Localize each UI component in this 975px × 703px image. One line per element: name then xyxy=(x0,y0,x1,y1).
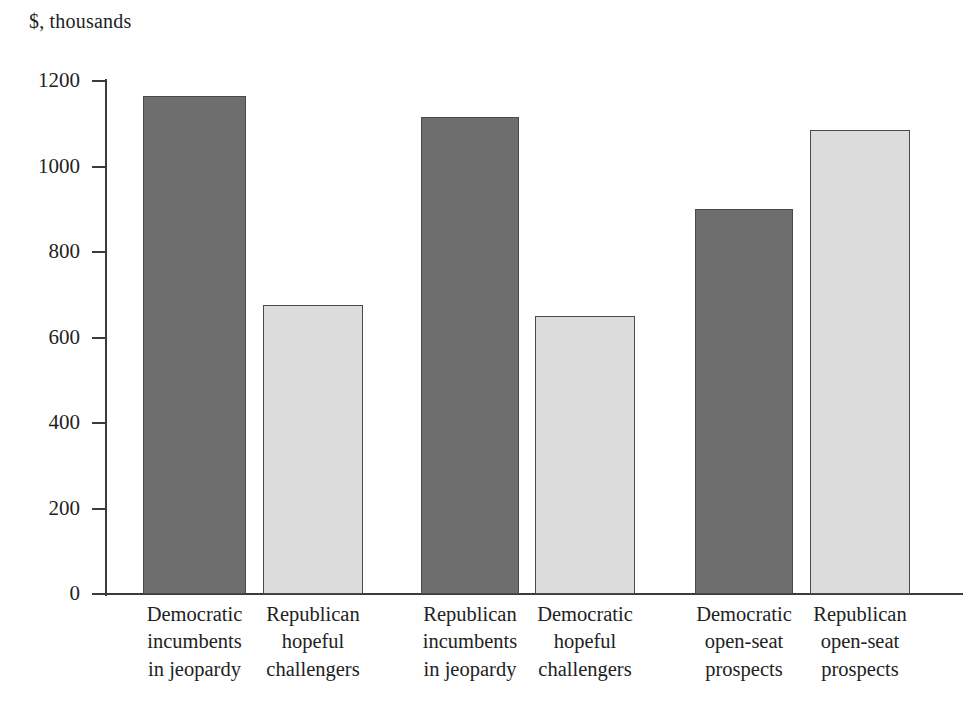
y-axis-tick-mark xyxy=(92,251,106,253)
x-axis-category-label-6: Republicanopen-seatprospects xyxy=(780,601,940,683)
bar-6 xyxy=(810,130,910,594)
x-axis-category-label-2: Republicanhopefulchallengers xyxy=(233,601,393,683)
x-axis-category-label-line: prospects xyxy=(780,656,940,683)
bar-5 xyxy=(695,209,793,594)
bar-2 xyxy=(263,305,363,594)
bar-3 xyxy=(421,117,519,594)
y-axis-tick-mark xyxy=(92,422,106,424)
y-axis-tick-label-text: 800 xyxy=(0,239,80,264)
x-axis-category-label-line: challengers xyxy=(505,656,665,683)
x-axis-category-label-line: Republican xyxy=(233,601,393,628)
y-axis-tick-label-text: 400 xyxy=(0,410,80,435)
x-axis-category-label-4: Democratichopefulchallengers xyxy=(505,601,665,683)
x-axis-category-label-line: open-seat xyxy=(780,628,940,655)
y-axis-tick-label-text: 1200 xyxy=(0,68,80,93)
x-axis-category-label-line: challengers xyxy=(233,656,393,683)
y-axis-tick-label-text: 200 xyxy=(0,496,80,521)
y-axis-tick-label-text: 0 xyxy=(0,581,80,606)
y-axis-tick-mark xyxy=(92,508,106,510)
x-axis-category-label-line: Democratic xyxy=(505,601,665,628)
y-axis-tick-label-text: 600 xyxy=(0,325,80,350)
y-axis-tick-mark xyxy=(92,166,106,168)
x-axis-category-label-line: hopeful xyxy=(505,628,665,655)
y-axis-tick-mark xyxy=(92,593,106,595)
bar-1 xyxy=(143,96,246,594)
bar-4 xyxy=(535,316,635,594)
y-axis-tick-label-text: 1000 xyxy=(0,154,80,179)
y-axis-tick-mark xyxy=(92,337,106,339)
y-axis-unit-label: $, thousands xyxy=(29,10,131,33)
x-axis-category-label-line: Republican xyxy=(780,601,940,628)
bar-chart: $, thousands 020040060080010001200 Democ… xyxy=(0,0,975,703)
x-axis-category-label-line: hopeful xyxy=(233,628,393,655)
y-axis-tick-mark xyxy=(92,80,106,82)
